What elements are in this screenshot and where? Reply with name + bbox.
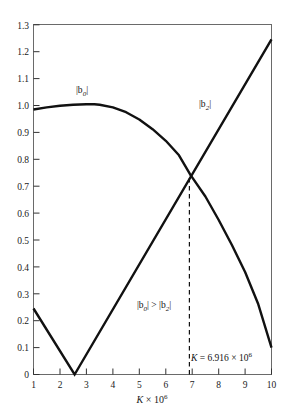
x-tick-label: 7 <box>190 380 195 390</box>
x-axis-title: K × 106 <box>136 393 168 405</box>
chart-plot-area: 0 0.1 0.2 0.3 0.4 0.5 0.6 0.7 0.8 0.9 1.… <box>0 0 291 418</box>
y-tick-label: 0.4 <box>17 263 29 273</box>
x-tick-label: 6 <box>163 380 168 390</box>
y-tick-label: 1.1 <box>17 74 29 84</box>
inequality-middle: | > |b <box>147 300 166 310</box>
y-tick-label: 1.2 <box>17 47 29 57</box>
y-tick-label: 0.5 <box>17 236 29 246</box>
svg-text:|b0| > |b2|: |b0| > |b2| <box>137 300 171 313</box>
curve-label-b0-close: | <box>86 85 88 95</box>
curve-label-b2: |b2| <box>199 99 211 112</box>
y-tick-label: 1.3 <box>17 21 29 31</box>
x-axis-title-exponent: 6 <box>164 393 168 401</box>
y-tick-label: 0.6 <box>17 209 29 219</box>
x-tick-label: 10 <box>267 380 277 390</box>
x-axis-ticks <box>34 369 272 375</box>
y-tick-label: 0.7 <box>17 182 29 192</box>
y-tick-label: 0.8 <box>17 155 29 165</box>
y-axis-tick-labels: 0 0.1 0.2 0.3 0.4 0.5 0.6 0.7 0.8 0.9 1.… <box>17 21 29 381</box>
y-tick-label: 0.2 <box>17 316 29 326</box>
x-axis-title-mult: × 10 <box>143 394 164 405</box>
x-axis-tick-labels: 1 2 3 4 5 6 7 8 9 10 <box>31 380 276 390</box>
y-tick-label: 0.9 <box>17 128 29 138</box>
y-axis-ticks <box>34 25 40 375</box>
x-tick-label: 2 <box>58 380 63 390</box>
curve-b0 <box>34 104 272 347</box>
inequality-close: | <box>169 300 171 310</box>
y-tick-label: 0 <box>24 370 29 380</box>
curve-b2 <box>34 39 272 374</box>
y-tick-label: 0.1 <box>17 343 29 353</box>
x-tick-label: 3 <box>84 380 89 390</box>
x-tick-label: 8 <box>216 380 221 390</box>
plot-frame <box>34 25 272 375</box>
y-tick-label: 0.3 <box>17 290 29 300</box>
crossing-equation: = 6.916 × 10 <box>197 353 248 363</box>
crossing-exponent: 6 <box>248 351 252 359</box>
x-tick-label: 1 <box>31 380 36 390</box>
svg-text:K = 6.916 × 106: K = 6.916 × 106 <box>190 351 252 363</box>
chart-figure: 0 0.1 0.2 0.3 0.4 0.5 0.6 0.7 0.8 0.9 1.… <box>0 0 291 418</box>
y-tick-label: 1.0 <box>17 101 29 111</box>
x-tick-label: 4 <box>111 380 116 390</box>
inequality-annotation: |b0| > |b2| <box>137 300 171 313</box>
x-tick-label: 9 <box>243 380 248 390</box>
curve-label-b0: |b0| <box>76 85 88 98</box>
crossing-value-annotation: K = 6.916 × 106 <box>190 351 252 363</box>
x-tick-label: 5 <box>137 380 142 390</box>
svg-text:|b0|: |b0| <box>76 85 88 98</box>
curve-label-b2-close: | <box>209 99 211 109</box>
svg-text:|b2|: |b2| <box>199 99 211 112</box>
svg-text:K × 106: K × 106 <box>136 393 168 405</box>
